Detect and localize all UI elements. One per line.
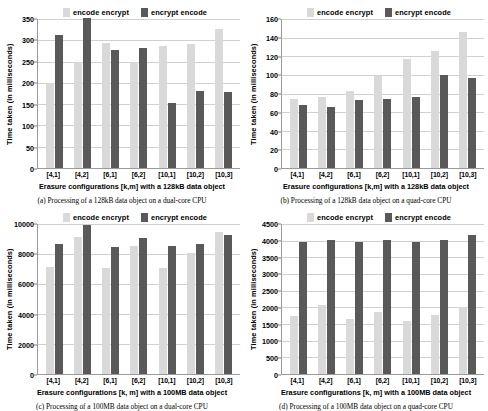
chart-body: Time taken (in milliseconds)050100150200…	[4, 19, 240, 169]
bar-encrypt-encode	[327, 107, 335, 168]
y-tick-label: 40	[270, 127, 278, 136]
x-tick-label: [6,1]	[96, 377, 124, 384]
x-tick-label: [6,1]	[340, 171, 368, 178]
bar-group	[153, 19, 181, 168]
legend-swatch-icon-series2	[141, 8, 148, 17]
bar-group	[284, 224, 312, 374]
bar-group	[97, 224, 125, 374]
bar-group	[312, 224, 340, 374]
x-tick-label: [4,1]	[39, 171, 67, 178]
chart-panel-c: encode encryptencrypt encodeTime taken (…	[0, 205, 244, 411]
bar-encode-encrypt	[403, 321, 411, 374]
x-tick-label: [6,1]	[96, 171, 124, 178]
y-tick-label: 10000	[14, 220, 34, 229]
chart-panel-d: encode encryptencrypt encodeTime taken (…	[244, 205, 488, 411]
bar-group	[454, 19, 482, 168]
panel-caption-d: (d) Processing of a 100MB data object on…	[248, 402, 484, 411]
bar-encode-encrypt	[318, 97, 326, 168]
y-axis-ticks: 050100150200250300350	[15, 19, 37, 169]
x-tick-label: [4,1]	[283, 171, 311, 178]
chart-panel-b: encode encryptencrypt encodeTime taken (…	[244, 0, 488, 205]
x-tick-label: [10,1]	[153, 377, 181, 384]
legend-label-series2: encrypt encode	[395, 213, 451, 222]
bar-encode-encrypt	[290, 99, 298, 168]
bar-encrypt-encode	[383, 240, 391, 374]
bar-encrypt-encode	[299, 105, 307, 168]
chart-panel-a: encode encryptencrypt encodeTime taken (…	[0, 0, 244, 205]
bar-encrypt-encode	[55, 244, 63, 375]
x-axis-ticks: [4,1][4,2][6,1][6,2][10,1][10,2][10,3]	[281, 171, 484, 178]
bar-encode-encrypt	[290, 316, 298, 374]
bar-encode-encrypt	[318, 305, 326, 374]
bar-encode-encrypt	[459, 307, 467, 374]
bar-encrypt-encode	[412, 97, 420, 168]
bar-group	[425, 224, 453, 374]
bar-encode-encrypt	[374, 76, 382, 168]
bar-encrypt-encode	[168, 246, 176, 374]
x-tick-label: [4,1]	[39, 377, 67, 384]
bar-encode-encrypt	[431, 51, 439, 168]
bar-group	[153, 224, 181, 374]
y-tick-label: 300	[22, 36, 34, 45]
y-tick-label: 500	[266, 354, 278, 363]
x-axis-ticks: [4,1][4,2][6,1][6,2][10,1][10,2][10,3]	[281, 377, 484, 384]
bar-groups	[282, 224, 484, 374]
bar-encode-encrypt	[159, 268, 167, 374]
x-tick-label: [10,2]	[425, 171, 453, 178]
legend-label-series2: encrypt encode	[151, 8, 207, 17]
x-tick-label: [10,2]	[425, 377, 453, 384]
bar-encrypt-encode	[224, 92, 232, 168]
bar-encode-encrypt	[102, 268, 110, 375]
y-tick-label: 120	[266, 52, 278, 61]
x-tick-label: [10,1]	[153, 171, 181, 178]
y-tick-label: 4500	[262, 220, 278, 229]
chart-body: Time taken (in milliseconds)020004000600…	[4, 224, 240, 375]
legend-swatch-icon-series1	[63, 213, 70, 222]
x-tick-label: [6,2]	[124, 171, 152, 178]
figure-grid: encode encryptencrypt encodeTime taken (…	[0, 0, 488, 411]
bar-encode-encrypt	[46, 267, 54, 374]
panel-caption-b: (b) Processing of a 128kB data object on…	[248, 196, 484, 205]
legend-label-series1: encode encrypt	[317, 8, 373, 17]
bar-encrypt-encode	[355, 242, 363, 374]
legend-swatch-icon-series1	[307, 8, 314, 17]
y-axis-label: Time taken (in milliseconds)	[4, 224, 15, 375]
bar-encrypt-encode	[139, 238, 147, 374]
y-tick-label: 200	[22, 79, 34, 88]
y-tick-label: 150	[22, 100, 34, 109]
bar-encrypt-encode	[355, 100, 363, 168]
plot-area	[37, 19, 240, 169]
x-tick-label: [10,1]	[397, 377, 425, 384]
x-axis-label: Erasure configurations [k, m] with a 100…	[24, 388, 240, 397]
bar-encrypt-encode	[468, 235, 476, 374]
chart-legend: encode encryptencrypt encode	[274, 6, 484, 19]
bar-group	[210, 19, 238, 168]
legend-item-series1: encode encrypt	[63, 8, 129, 17]
panel-caption-c: (c) Processing of a 100MB data object on…	[4, 402, 240, 411]
panel-caption-a: (a) Processing of a 128kB data object on…	[4, 196, 240, 205]
bar-encrypt-encode	[383, 99, 391, 168]
bar-encode-encrypt	[346, 91, 354, 168]
y-axis-ticks: 0200040006000800010000	[15, 224, 37, 375]
bar-group	[397, 19, 425, 168]
bar-encrypt-encode	[168, 103, 176, 168]
bar-groups	[38, 19, 240, 168]
x-axis-label: Erasure configurations [k,m] with a 128k…	[24, 182, 240, 191]
bar-groups	[282, 19, 484, 168]
legend-item-series2: encrypt encode	[141, 8, 207, 17]
legend-item-series2: encrypt encode	[141, 213, 207, 222]
bar-group	[97, 19, 125, 168]
y-tick-label: 20	[270, 146, 278, 155]
x-axis-label: Erasure configurations [k,m] with a 128k…	[268, 182, 484, 191]
x-tick-label: [10,2]	[181, 377, 209, 384]
y-axis-ticks: 020406080100120140160	[259, 19, 281, 169]
bar-group	[454, 224, 482, 374]
plot-area	[281, 224, 484, 375]
legend-label-series1: encode encrypt	[73, 8, 129, 17]
x-tick-label: [4,1]	[283, 377, 311, 384]
legend-swatch-icon-series1	[63, 8, 70, 17]
bar-encode-encrypt	[403, 59, 411, 168]
bar-encode-encrypt	[374, 312, 382, 374]
x-tick-label: [6,2]	[368, 377, 396, 384]
bar-group	[125, 19, 153, 168]
